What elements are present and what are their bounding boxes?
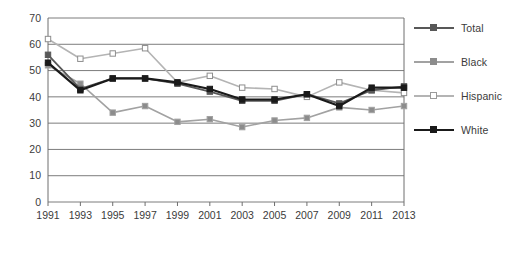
data-point-black — [207, 117, 212, 122]
legend-swatch-total — [414, 22, 454, 34]
x-axis-tick-label: 2005 — [263, 209, 287, 221]
legend-marker-hispanic — [430, 92, 437, 99]
legend-marker-total — [430, 24, 437, 31]
data-point-white — [401, 85, 406, 90]
legend-item-hispanic[interactable]: Hispanic — [414, 88, 502, 104]
y-axis-tick-label: 70 — [29, 12, 41, 24]
legend-label-total: Total — [461, 22, 484, 34]
data-point-black — [110, 110, 115, 115]
data-point-white — [78, 88, 83, 93]
data-point-hispanic — [78, 56, 83, 61]
data-point-black — [304, 115, 309, 120]
data-point-white — [337, 103, 342, 108]
data-point-hispanic — [272, 86, 277, 91]
legend-swatch-hispanic — [414, 90, 454, 102]
data-point-black — [369, 107, 374, 112]
data-point-hispanic — [239, 85, 244, 90]
x-axis-tick-label: 1999 — [166, 209, 190, 221]
data-point-white — [304, 92, 309, 97]
legend-marker-black — [430, 58, 437, 65]
legend-label-black: Black — [461, 56, 487, 68]
y-axis-tick-label: 30 — [29, 117, 41, 129]
legend-label-white: White — [461, 124, 488, 136]
x-axis-tick-label: 2007 — [295, 209, 319, 221]
data-point-white — [45, 60, 50, 65]
data-point-white — [369, 85, 374, 90]
legend-label-hispanic: Hispanic — [461, 90, 502, 102]
x-axis-tick-label: 1991 — [36, 209, 60, 221]
x-axis-tick-label: 1995 — [101, 209, 125, 221]
data-point-white — [272, 97, 277, 102]
legend-swatch-white — [414, 124, 454, 136]
data-point-black — [175, 119, 180, 124]
data-point-black — [401, 103, 406, 108]
chart-legend: Total Black Hispanic White — [414, 14, 522, 144]
x-axis-tick-label: 1997 — [133, 209, 157, 221]
series-line-total — [48, 55, 404, 104]
data-point-hispanic — [142, 46, 147, 51]
series-line-hispanic — [48, 39, 404, 97]
x-axis-tick-label: 1993 — [69, 209, 93, 221]
data-point-white — [175, 80, 180, 85]
legend-marker-white — [430, 126, 437, 133]
y-axis-tick-label: 0 — [35, 196, 41, 208]
y-axis-tick-label: 10 — [29, 169, 41, 181]
data-point-black — [142, 103, 147, 108]
data-point-white — [110, 76, 115, 81]
data-point-hispanic — [110, 51, 115, 56]
x-axis-tick-label: 2001 — [198, 209, 222, 221]
x-axis-tick-label: 2003 — [231, 209, 255, 221]
data-point-hispanic — [45, 36, 50, 41]
legend-item-white[interactable]: White — [414, 122, 488, 138]
data-point-white — [207, 86, 212, 91]
x-axis-tick-label: 2009 — [328, 209, 352, 221]
y-axis-tick-label: 20 — [29, 143, 41, 155]
data-point-black — [239, 124, 244, 129]
legend-item-black[interactable]: Black — [414, 54, 487, 70]
data-point-black — [78, 81, 83, 86]
data-point-black — [272, 118, 277, 123]
chart-container: 0102030405060701991199319951997199920012… — [0, 0, 523, 262]
y-axis-tick-label: 40 — [29, 91, 41, 103]
data-point-white — [239, 97, 244, 102]
data-point-hispanic — [401, 90, 406, 95]
y-axis-tick-label: 50 — [29, 64, 41, 76]
x-axis-tick-label: 2013 — [392, 209, 416, 221]
data-point-white — [142, 76, 147, 81]
data-point-hispanic — [337, 80, 342, 85]
data-point-hispanic — [207, 73, 212, 78]
data-point-total — [45, 52, 50, 57]
legend-item-total[interactable]: Total — [414, 20, 484, 36]
y-axis-tick-label: 60 — [29, 38, 41, 50]
legend-swatch-black — [414, 56, 454, 68]
x-axis-tick-label: 2011 — [360, 209, 383, 221]
